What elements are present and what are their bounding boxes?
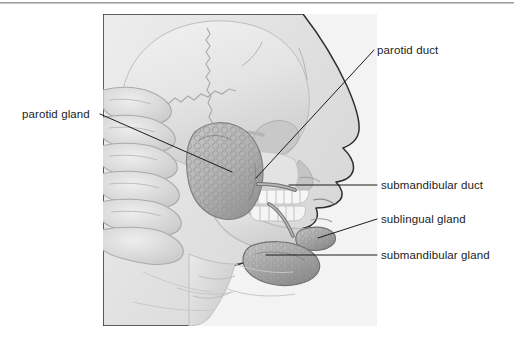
label-submandibular-duct: submandibular duct [381, 179, 483, 192]
figure-root: parotid gland parotid duct submandibular… [0, 0, 514, 342]
cervical-vertebrae-shape [103, 87, 183, 264]
label-parotid-gland: parotid gland [22, 108, 90, 121]
label-parotid-duct: parotid duct [377, 44, 438, 57]
label-sublingual-gland: sublingual gland [381, 213, 466, 226]
anatomy-illustration [103, 14, 377, 326]
top-divider-rule [0, 2, 514, 4]
anatomy-figure-panel [103, 14, 377, 326]
label-submandibular-gland: submandibular gland [381, 249, 490, 262]
